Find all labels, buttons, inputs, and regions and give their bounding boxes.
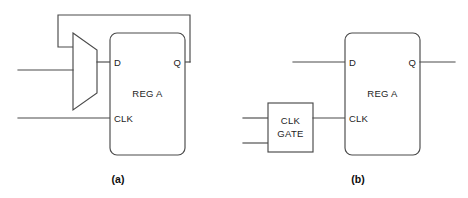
clock-gate-label-line2: GATE bbox=[277, 128, 303, 139]
panel-a-caption: (a) bbox=[112, 173, 125, 185]
figure-root: D Q CLK REG A (a) CLK bbox=[0, 0, 468, 198]
register-a-name-label: REG A bbox=[132, 88, 163, 99]
register-b-d-pin-label: D bbox=[349, 57, 356, 68]
clock-gate-label-line1: CLK bbox=[281, 115, 301, 126]
mux-shape-a bbox=[73, 33, 97, 110]
register-a-d-pin-label: D bbox=[114, 57, 121, 68]
register-a-clk-pin-label: CLK bbox=[114, 113, 134, 124]
register-a-q-pin-label: Q bbox=[173, 57, 181, 68]
panel-b-caption: (b) bbox=[351, 173, 364, 185]
register-b-name-label: REG A bbox=[367, 88, 398, 99]
circuit-diagram-canvas: D Q CLK REG A (a) CLK bbox=[0, 0, 468, 198]
register-b-clk-pin-label: CLK bbox=[349, 113, 369, 124]
register-b-q-pin-label: Q bbox=[408, 57, 416, 68]
panel-a-group: D Q CLK REG A (a) bbox=[18, 15, 190, 185]
panel-b-group: CLK GATE D Q CLK REG A (b) bbox=[243, 33, 455, 185]
